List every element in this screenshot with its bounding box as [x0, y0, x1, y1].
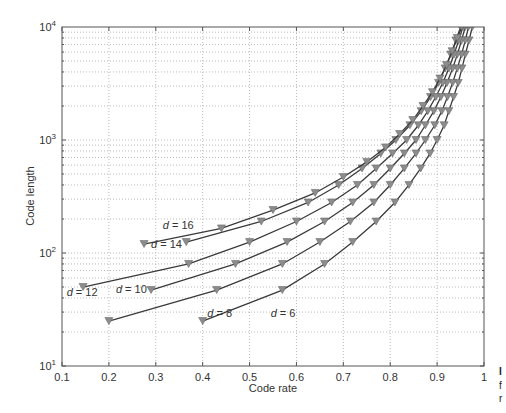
y-tick-label: 101 — [39, 358, 56, 372]
down-triangle-marker — [292, 218, 300, 225]
down-triangle-marker — [213, 287, 221, 294]
down-triangle-marker — [431, 122, 439, 129]
down-triangle-marker — [421, 122, 429, 129]
curve-labels: d = 6d = 8d = 10d = 12d = 14d = 16 — [67, 219, 296, 319]
cropped-caption-char: I — [499, 366, 502, 377]
curve-label: d = 6 — [271, 307, 296, 319]
down-triangle-marker — [257, 218, 265, 225]
down-triangle-marker — [283, 239, 291, 246]
down-triangle-marker — [424, 108, 432, 115]
data-curves — [79, 24, 476, 325]
x-axis-title: Code rate — [249, 382, 297, 394]
down-triangle-marker — [231, 260, 239, 267]
down-triangle-marker — [440, 122, 448, 129]
down-triangle-marker — [105, 318, 113, 325]
x-tick-label: 0.1 — [54, 371, 69, 383]
cropped-caption-char: r — [499, 393, 502, 404]
down-triangle-marker — [269, 207, 277, 214]
x-tick-label: 0.8 — [383, 371, 398, 383]
down-triangle-marker — [417, 165, 425, 172]
curve-label: d = 16 — [163, 219, 194, 231]
curve-d12 — [79, 24, 467, 291]
x-tick-label: 0.7 — [336, 371, 351, 383]
y-tick-label: 102 — [39, 245, 56, 259]
y-tick-label: 104 — [39, 19, 56, 33]
y-axis-title: Code length — [24, 166, 36, 225]
x-tick-label: 1 — [481, 371, 487, 383]
axis-ticks: 0.10.20.30.40.50.60.70.80.91101102103104 — [39, 19, 487, 383]
down-triangle-marker — [328, 199, 336, 206]
down-triangle-marker — [182, 239, 190, 246]
down-triangle-marker — [412, 150, 420, 157]
down-triangle-marker — [311, 189, 319, 196]
code-length-vs-rate-chart: 0.10.20.30.40.50.60.70.80.91101102103104… — [0, 0, 506, 413]
down-triangle-marker — [443, 94, 451, 101]
down-triangle-marker — [246, 239, 254, 246]
down-triangle-marker — [199, 318, 207, 325]
curve-label: d = 14 — [151, 238, 182, 250]
down-triangle-marker — [321, 218, 329, 225]
x-tick-label: 0.4 — [195, 371, 210, 383]
down-triangle-marker — [278, 287, 286, 294]
curve-label: d = 8 — [207, 307, 232, 319]
curve-label: d = 12 — [67, 286, 98, 298]
down-triangle-marker — [147, 287, 155, 294]
curve-d14 — [182, 24, 464, 246]
y-tick-label: 103 — [39, 132, 56, 146]
down-triangle-marker — [414, 122, 422, 129]
down-triangle-marker — [445, 108, 453, 115]
down-triangle-marker — [438, 108, 446, 115]
x-tick-label: 0.3 — [148, 371, 163, 383]
down-triangle-marker — [316, 239, 324, 246]
down-triangle-marker — [304, 199, 312, 206]
curve-d16 — [140, 24, 466, 248]
curve-label: d = 10 — [116, 283, 147, 295]
down-triangle-marker — [426, 150, 434, 157]
x-tick-label: 0.9 — [429, 371, 444, 383]
x-tick-label: 0.2 — [101, 371, 116, 383]
cropped-caption-char: f — [499, 380, 502, 391]
down-triangle-marker — [278, 260, 286, 267]
